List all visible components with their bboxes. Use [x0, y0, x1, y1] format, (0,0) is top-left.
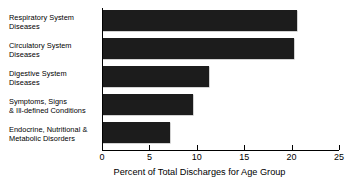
category-label-respiratory: Respiratory System Diseases [9, 13, 101, 32]
x-tick-label: 10 [182, 152, 212, 163]
category-label-line: Diseases [9, 50, 101, 59]
bar-chart-figure: Respiratory System Diseases Circulatory … [0, 0, 359, 188]
x-tick-label: 25 [324, 152, 354, 163]
x-tick-label: 5 [134, 152, 164, 163]
category-label-digestive: Digestive System Diseases [9, 69, 101, 88]
x-tick-label: 20 [277, 152, 307, 163]
bar-circulatory [102, 38, 294, 59]
bar-respiratory [102, 10, 297, 31]
x-tick-mark [102, 145, 103, 150]
x-tick-label: 15 [229, 152, 259, 163]
x-axis-title: Percent of Total Discharges for Age Grou… [0, 166, 359, 178]
bar-digestive [102, 66, 209, 87]
bar-row [102, 122, 170, 143]
category-axis-labels: Respiratory System Diseases Circulatory … [0, 0, 100, 148]
category-label-symptoms: Symptoms, Signs & Ill-defined Conditions [9, 97, 101, 116]
category-label-circulatory: Circulatory System Diseases [9, 41, 101, 60]
x-axis-line [102, 150, 339, 151]
category-label-line: Diseases [9, 78, 101, 87]
y-axis-line [102, 8, 103, 150]
bar-row [102, 10, 297, 31]
bar-row [102, 38, 294, 59]
plot-area [102, 8, 339, 150]
bar-row [102, 94, 193, 115]
bar-symptoms [102, 94, 193, 115]
bar-endocrine [102, 122, 170, 143]
category-label-line: Respiratory System [9, 13, 101, 22]
category-label-line: Digestive System [9, 69, 101, 78]
category-label-line: Symptoms, Signs [9, 97, 101, 106]
category-label-line: & Ill-defined Conditions [9, 106, 101, 115]
category-label-line: Circulatory System [9, 41, 101, 50]
x-tick-mark [149, 145, 150, 150]
bar-row [102, 66, 209, 87]
x-tick-mark [197, 145, 198, 150]
x-tick-mark [339, 145, 340, 150]
x-tick-label: 0 [87, 152, 117, 163]
x-tick-mark [244, 145, 245, 150]
category-label-line: Endocrine, Nutritional & [9, 125, 101, 134]
category-label-line: Metabolic Disorders [9, 134, 101, 143]
x-tick-mark [292, 145, 293, 150]
category-label-endocrine: Endocrine, Nutritional & Metabolic Disor… [9, 125, 101, 144]
category-label-line: Diseases [9, 22, 101, 31]
